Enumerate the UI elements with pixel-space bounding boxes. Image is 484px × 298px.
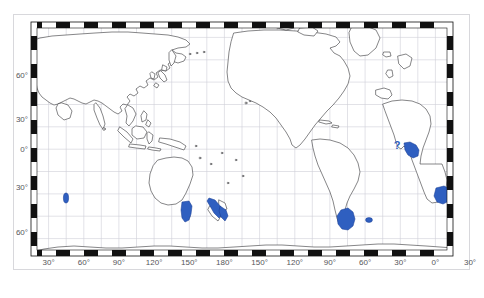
- coast-island-pacific-1: [199, 157, 201, 159]
- y-tick-4: 60°: [12, 227, 28, 236]
- x-tick-2: 90°: [113, 258, 125, 267]
- coast-island-pacific-3: [221, 152, 223, 154]
- x-tick-5: 180°: [216, 258, 233, 267]
- x-tick-9: 60°: [359, 258, 371, 267]
- uncertain-record-marker: ?: [394, 139, 401, 151]
- x-tick-11: 0°: [432, 258, 440, 267]
- coast-island-aleutian-3: [203, 51, 205, 53]
- world-distribution-map: ? 30° 60° 90° 120° 150° 180° 150° 120° 9…: [0, 8, 484, 290]
- x-tick-8: 90°: [324, 258, 336, 267]
- figure-root: ? 30° 60° 90° 120° 150° 180° 150° 120° 9…: [0, 0, 484, 298]
- highlight-southern-indian-ocean-island: [63, 193, 68, 203]
- y-tick-0: 60°: [12, 70, 28, 79]
- x-tick-0: 30°: [43, 258, 55, 267]
- y-tick-2: 0°: [12, 145, 28, 154]
- x-tick-12: 30°: [464, 258, 476, 267]
- map-canvas: ?: [0, 8, 484, 290]
- y-tick-1: 30°: [12, 115, 28, 124]
- coast-island-pacific-7: [195, 145, 197, 147]
- y-tick-3: 30°: [12, 182, 28, 191]
- coast-island-pacific-2: [210, 163, 212, 165]
- coast-island-pacific-4: [235, 159, 237, 161]
- coast-island-hawaii: [245, 102, 247, 104]
- x-tick-1: 60°: [78, 258, 90, 267]
- x-tick-6: 150°: [251, 258, 268, 267]
- x-tick-3: 120°: [146, 258, 163, 267]
- highlight-falkland-islands: [366, 218, 373, 223]
- map-interior: ?: [31, 22, 453, 256]
- top-caption-strip: [70, 0, 410, 7]
- coast-island-pacific-6: [242, 175, 244, 177]
- x-tick-10: 30°: [394, 258, 406, 267]
- coast-island-aleutian-1: [189, 53, 191, 55]
- coast-island-pacific-5: [227, 182, 229, 184]
- coast-island-aleutian-2: [196, 52, 198, 54]
- x-tick-7: 120°: [287, 258, 304, 267]
- x-tick-4: 150°: [181, 258, 198, 267]
- coast-sri-lanka: [103, 128, 106, 131]
